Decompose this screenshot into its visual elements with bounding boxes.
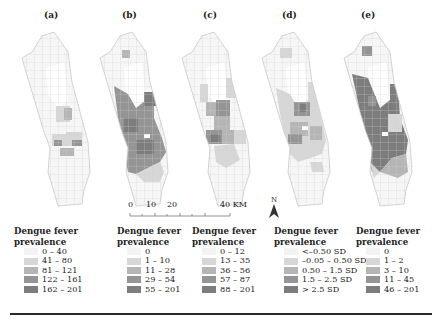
swatch-class4: [366, 276, 380, 283]
scale-tick-40: 40 KM: [220, 200, 247, 209]
swatch-class1: [127, 248, 141, 255]
legend-b: Dengue fever prevalence 0 1 – 10 11 – 28…: [117, 226, 181, 294]
swatch-class5: [284, 286, 298, 293]
swatch-class5: [24, 286, 38, 293]
swatch-class5: [202, 286, 216, 293]
swatch-class2: [366, 258, 380, 265]
swatch-class5: [127, 286, 141, 293]
swatch-class3: [284, 267, 298, 274]
legend-a: Dengue fever prevalence 0 – 40 41 – 80 8…: [14, 226, 83, 294]
panel-label-d: (d): [282, 10, 297, 20]
scale-tick-0: 0: [128, 200, 133, 209]
legend-d: Dengue fever prevalence <–0.50 SD –0.05 …: [274, 226, 367, 294]
panel-label-b: (b): [122, 10, 137, 20]
swatch-class3: [202, 267, 216, 274]
scale-tick-10: 10: [146, 200, 156, 209]
swatch-class1: [284, 248, 298, 255]
swatch-class2: [127, 258, 141, 265]
legend-item-label: 162 – 201: [42, 285, 83, 294]
legend-e: Dengue fever prevalence 0 1 – 2 3 – 10 1…: [356, 226, 420, 294]
swatch-class2: [284, 258, 298, 265]
swatch-class3: [24, 267, 38, 274]
swatch-class2: [202, 258, 216, 265]
swatch-class4: [127, 276, 141, 283]
legend-title: Dengue fever: [192, 226, 256, 237]
legend-item-label: > 2.5 SD: [302, 285, 339, 294]
scale-bar-line: [122, 210, 242, 218]
legend-item: 46 – 201: [356, 285, 420, 294]
swatch-class1: [202, 248, 216, 255]
legend-title: Dengue fever: [117, 226, 181, 237]
legend-c: Dengue fever prevalence 0 – 12 13 – 35 3…: [192, 226, 256, 294]
panel-label-e: (e): [361, 10, 375, 20]
map-e: [332, 22, 422, 212]
legend-item: 55 – 201: [117, 285, 181, 294]
legend-item-label: 46 – 201: [384, 285, 419, 294]
legend-item: 162 – 201: [14, 285, 83, 294]
swatch-class5: [366, 286, 380, 293]
swatch-class2: [24, 258, 38, 265]
swatch-class4: [24, 276, 38, 283]
north-arrow: N: [266, 196, 282, 222]
swatch-class4: [284, 276, 298, 283]
swatch-class1: [366, 248, 380, 255]
map-b: [88, 22, 178, 212]
figure-bottom-rule: [10, 313, 432, 315]
map-c: [170, 22, 260, 212]
north-label: N: [266, 196, 282, 204]
legend-title: Dengue fever: [14, 226, 83, 237]
map-d: [250, 22, 340, 212]
panel-label-c: (c): [203, 10, 217, 20]
swatch-class3: [366, 267, 380, 274]
legend-item-label: 55 – 201: [145, 285, 180, 294]
north-arrow-icon: [268, 204, 280, 218]
legend-title: Dengue fever: [356, 226, 420, 237]
scale-bar: 0 10 20 40 KM: [122, 200, 322, 220]
legend-item: > 2.5 SD: [274, 285, 367, 294]
swatch-class1: [24, 248, 38, 255]
swatch-class3: [127, 267, 141, 274]
legend-title: Dengue fever: [274, 226, 367, 237]
panel-label-a: (a): [44, 10, 58, 20]
swatch-class4: [202, 276, 216, 283]
scale-tick-20: 20: [167, 200, 177, 209]
legend-item-label: 88 – 201: [220, 285, 255, 294]
legend-item: 88 – 201: [192, 285, 256, 294]
map-a: [10, 22, 100, 212]
